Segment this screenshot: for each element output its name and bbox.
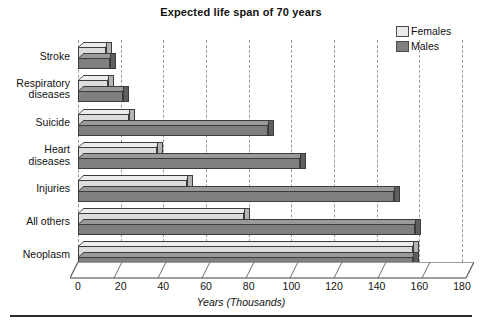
plot-area [78, 40, 462, 272]
bar-group-stroke [78, 40, 462, 73]
bar-group-all-others [78, 206, 462, 239]
bar-side-face [415, 219, 421, 235]
y-axis-label-suicide: Suicide [0, 117, 70, 129]
bar-males-stroke[interactable] [78, 58, 110, 69]
x-tick-label-20: 20 [115, 280, 127, 292]
bar-side-face [110, 53, 116, 69]
x-tick-label-60: 60 [200, 280, 212, 292]
x-tick-label-0: 0 [75, 280, 81, 292]
y-label-line2: diseases [0, 156, 70, 168]
bar-front-face [78, 158, 300, 169]
y-axis-label-neoplasm: Neoplasm [0, 249, 70, 261]
bar-males-injuries[interactable] [78, 191, 394, 202]
legend-item-females[interactable]: Females [396, 24, 482, 38]
y-label-line1: Injuries [0, 183, 70, 195]
x-axis-title: Years (Thousands) [0, 296, 482, 308]
y-axis-label-respiratory-diseases: Respiratorydiseases [0, 78, 70, 101]
y-label-line1: All others [0, 216, 70, 228]
y-label-line1: Heart [0, 144, 70, 156]
bar-side-face [394, 186, 400, 202]
x-tick-label-160: 160 [411, 280, 429, 292]
bar-front-face [78, 125, 268, 136]
y-label-line1: Suicide [0, 117, 70, 129]
y-axis-label-stroke: Stroke [0, 51, 70, 63]
bar-group-suicide [78, 106, 462, 139]
bar-side-face [300, 153, 306, 169]
x-tick-label-120: 120 [325, 280, 343, 292]
y-axis-label-injuries: Injuries [0, 183, 70, 195]
x-tick-label-100: 100 [283, 280, 301, 292]
bar-group-heart-diseases [78, 139, 462, 172]
bar-series-layer [78, 40, 462, 272]
bar-front-face [78, 191, 394, 202]
bar-front-face [78, 91, 123, 102]
bar-side-face [123, 86, 129, 102]
bar-side-face [268, 120, 274, 136]
bottom-divider [10, 315, 472, 317]
bar-group-injuries [78, 173, 462, 206]
legend-label-females: Females [411, 26, 451, 37]
x-tick-label-180: 180 [453, 280, 471, 292]
x-tick-label-40: 40 [157, 280, 169, 292]
y-axis-label-heart-diseases: Heartdiseases [0, 144, 70, 167]
y-axis-label-all-others: All others [0, 216, 70, 228]
bar-males-suicide[interactable] [78, 125, 268, 136]
x-tick-label-80: 80 [243, 280, 255, 292]
x-axis-tick-labels: 020406080100120140160180 [0, 280, 482, 294]
y-label-line1: Neoplasm [0, 249, 70, 261]
bar-males-all-others[interactable] [78, 224, 415, 235]
bar-males-heart-diseases[interactable] [78, 158, 300, 169]
chart-container: Expected life span of 70 years Females M… [0, 0, 482, 323]
bar-group-respiratory-diseases [78, 73, 462, 106]
y-label-line2: diseases [0, 89, 70, 101]
y-axis-category-labels: StrokeRespiratorydiseasesSuicideHeartdis… [0, 40, 74, 272]
y-label-line1: Stroke [0, 51, 70, 63]
bar-front-face [78, 58, 110, 69]
legend-swatch-females [396, 26, 409, 37]
bar-front-face [78, 224, 415, 235]
chart-title: Expected life span of 70 years [0, 6, 482, 18]
bar-males-respiratory-diseases[interactable] [78, 91, 123, 102]
x-tick-label-140: 140 [368, 280, 386, 292]
gridline-180 [462, 40, 463, 272]
